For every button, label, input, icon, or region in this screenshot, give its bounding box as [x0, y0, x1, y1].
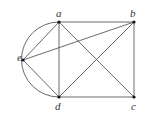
node-d [57, 95, 60, 98]
edge-d-e [23, 60, 59, 97]
node-label-c: c [131, 100, 136, 112]
edge-a-e [23, 22, 59, 60]
node-label-d: d [55, 100, 61, 112]
node-labels: abcde [17, 7, 136, 112]
node-a [57, 20, 60, 23]
graph-diagram: abcde [0, 0, 142, 115]
node-label-e: e [17, 51, 22, 63]
curved-edge-a-d [22, 22, 60, 97]
node-label-a: a [56, 7, 62, 19]
node-label-b: b [130, 7, 136, 19]
node-c [132, 95, 135, 98]
nodes [21, 20, 135, 98]
edges [23, 22, 134, 97]
node-b [132, 20, 135, 23]
